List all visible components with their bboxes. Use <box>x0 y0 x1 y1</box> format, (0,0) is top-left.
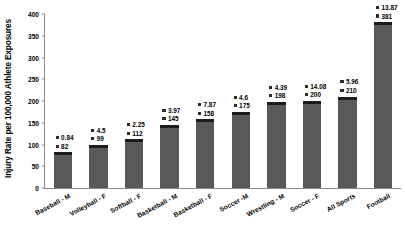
bar-label-value-text: 210 <box>346 87 357 94</box>
bar-group: 2.25112 <box>125 14 144 188</box>
bar-label-rate-text: 7.87 <box>204 101 216 108</box>
bar-label-value-text: 200 <box>310 91 321 98</box>
x-axis-category-label: Football <box>366 192 392 210</box>
y-axis-tick-mark <box>42 14 45 15</box>
y-axis-tick-mark <box>42 188 45 189</box>
bar-data-labels: 7.87158 <box>198 101 216 118</box>
bar-group: 5.96210 <box>338 14 357 188</box>
bar-label-rate: 14.08 <box>305 83 327 92</box>
bar-label-value: 200 <box>305 91 327 100</box>
bar-group: 14.08200 <box>303 14 322 188</box>
bar-group: 0.8482 <box>54 14 73 188</box>
bar-label-rate: 4.39 <box>269 84 287 93</box>
bar-label-value-text: 175 <box>239 102 250 109</box>
bar-label-rate: 7.87 <box>198 101 216 110</box>
bar-label-value: 82 <box>56 143 74 152</box>
plot-area: 050100150200250300350400 0.84824.5992.25… <box>45 14 401 188</box>
bar-group: 7.87158 <box>196 14 215 188</box>
data-label-marker-icon <box>91 129 94 132</box>
bar <box>160 125 179 188</box>
x-axis-category-label: Soccer -M <box>218 192 249 213</box>
bar-data-labels: 5.96210 <box>340 78 358 95</box>
data-label-marker-icon <box>56 136 59 139</box>
x-axis-category-label: Soccer - F <box>289 192 320 213</box>
data-label-marker-icon <box>198 112 201 115</box>
y-axis-tick-mark <box>42 144 45 145</box>
bar-group: 13.87381 <box>374 14 393 188</box>
bar <box>54 152 73 188</box>
data-label-marker-icon <box>376 14 379 17</box>
x-axis-category-label: All Sports <box>325 192 356 213</box>
bar-data-labels: 4.599 <box>91 127 105 144</box>
x-axis-category-label: Basketball - F <box>173 192 214 218</box>
bar-group: 3.97145 <box>160 14 179 188</box>
y-axis-tick-mark <box>42 57 45 58</box>
bar-label-value-text: 112 <box>132 130 142 137</box>
bar-label-rate-text: 14.08 <box>310 83 326 90</box>
data-label-marker-icon <box>234 96 237 99</box>
x-axis-category-label: Wrestling - M <box>245 192 285 218</box>
x-axis-category-label: Volleyball - F <box>68 192 107 217</box>
bar-data-labels: 14.08200 <box>305 83 327 100</box>
bar-label-rate: 2.25 <box>127 121 145 130</box>
bar <box>374 22 393 188</box>
x-axis-category-label: Basketball - M <box>136 192 178 219</box>
bar-label-value: 198 <box>269 92 287 101</box>
y-axis-tick-mark <box>42 35 45 36</box>
bar <box>125 139 144 188</box>
bar-label-value-text: 99 <box>97 135 104 142</box>
data-label-marker-icon <box>91 137 94 140</box>
data-label-marker-icon <box>305 85 308 88</box>
bar-data-labels: 13.87381 <box>376 4 398 21</box>
x-axis-category-label: Baseball - M <box>34 192 71 216</box>
data-label-marker-icon <box>305 93 308 96</box>
bar <box>196 119 215 188</box>
data-label-marker-icon <box>198 103 201 106</box>
bar-group: 4.6175 <box>232 14 251 188</box>
bar-label-rate-text: 5.96 <box>346 78 358 85</box>
bar-group: 4.599 <box>89 14 108 188</box>
bar-data-labels: 2.25112 <box>127 121 145 138</box>
bar-label-value-text: 145 <box>168 115 179 122</box>
bar-label-rate: 0.84 <box>56 134 74 143</box>
y-axis-tick-mark <box>42 122 45 123</box>
bar-label-rate: 13.87 <box>376 4 398 13</box>
bar-label-value: 112 <box>127 130 145 139</box>
bar-label-value-text: 381 <box>382 13 393 20</box>
y-axis-title: Injury Rate per 100,000 Athlete Exposure… <box>0 0 16 196</box>
bar-label-value: 99 <box>91 135 105 144</box>
bar-label-rate-text: 4.6 <box>239 94 248 101</box>
data-label-marker-icon <box>127 123 130 126</box>
bar-group: 4.39198 <box>267 14 286 188</box>
bar <box>232 112 251 188</box>
injury-rate-bar-chart: Injury Rate per 100,000 Athlete Exposure… <box>0 0 405 244</box>
bar-label-rate-text: 2.25 <box>132 121 144 128</box>
data-label-marker-icon <box>376 6 379 9</box>
bar-label-rate-text: 13.87 <box>382 4 398 11</box>
data-label-marker-icon <box>162 117 165 120</box>
bar-data-labels: 3.97145 <box>162 107 180 124</box>
bar-label-rate-text: 3.97 <box>168 107 180 114</box>
bar-label-rate: 5.96 <box>340 78 358 87</box>
bar-label-rate-text: 4.39 <box>275 84 287 91</box>
y-axis-tick-mark <box>42 101 45 102</box>
bar-label-rate: 4.6 <box>234 94 250 103</box>
bar-label-value: 381 <box>376 13 398 22</box>
bar <box>303 101 322 188</box>
bar <box>338 97 357 188</box>
bar-label-rate-text: 0.84 <box>61 134 73 141</box>
bar-label-value: 145 <box>162 115 180 124</box>
data-label-marker-icon <box>269 86 272 89</box>
bar-label-value-text: 198 <box>275 92 286 99</box>
bar-label-rate: 3.97 <box>162 107 180 116</box>
data-label-marker-icon <box>127 132 130 135</box>
y-axis-tick-mark <box>42 79 45 80</box>
bar-label-value: 158 <box>198 110 216 119</box>
bar-label-value-text: 82 <box>61 143 68 150</box>
data-label-marker-icon <box>56 145 59 148</box>
bar-data-labels: 4.39198 <box>269 84 287 101</box>
y-axis-title-text: Injury Rate per 100,000 Athlete Exposure… <box>4 19 13 178</box>
bar <box>89 145 108 188</box>
bar-label-rate-text: 4.5 <box>97 127 106 134</box>
x-axis-line <box>44 188 401 189</box>
